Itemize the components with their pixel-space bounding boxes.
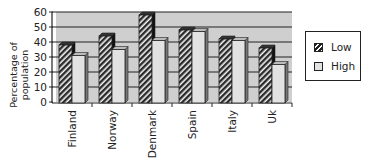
y-tick-label: 60 xyxy=(34,6,47,18)
bar-high-finland xyxy=(72,53,88,104)
legend-item-high: High xyxy=(314,60,355,72)
legend-swatch-high-icon xyxy=(314,62,323,71)
bar-high-denmark xyxy=(152,38,168,104)
bar-high-spain xyxy=(192,29,208,104)
grouped-bar-chart: 0102030405060FinlandNorwayDenmarkSpainIt… xyxy=(0,0,375,160)
y-axis-label-line-2: population xyxy=(19,42,30,108)
x-tick-label: Norway xyxy=(106,110,118,150)
legend-label-low: Low xyxy=(331,41,352,53)
y-axis-label: Percentage of population xyxy=(2,30,36,120)
x-tick-label: Italy xyxy=(226,110,238,133)
x-tick-label: Spain xyxy=(186,110,198,139)
legend-label-high: High xyxy=(331,60,355,72)
bar-high-norway xyxy=(112,47,128,104)
legend-swatch-low-icon xyxy=(314,43,323,52)
legend-item-low: Low xyxy=(314,41,352,53)
x-tick-label: Finland xyxy=(66,110,78,148)
legend: Low High xyxy=(305,31,361,81)
x-tick-label: Uk xyxy=(266,109,278,124)
bar-high-uk xyxy=(272,62,288,104)
y-axis-label-line-1: Percentage of xyxy=(8,42,19,108)
x-tick-label: Denmark xyxy=(146,109,158,158)
bar-high-italy xyxy=(232,38,248,104)
y-tick-label: 0 xyxy=(40,96,47,108)
